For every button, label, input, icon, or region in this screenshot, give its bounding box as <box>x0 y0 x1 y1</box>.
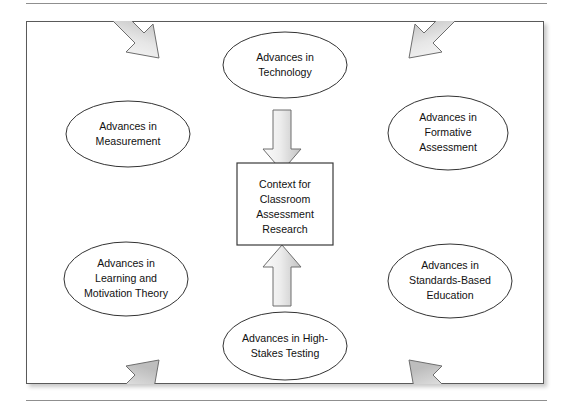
center-line-2: Classroom <box>260 193 311 205</box>
center-node-context-for-classroom-assessment-research: Context for Classroom Assessment Researc… <box>237 163 333 245</box>
arrow-standards-based-education-to-center <box>104 21 159 58</box>
node-learning-motivation-theory-line-2: Learning and <box>95 272 157 284</box>
page-rule-top <box>26 3 547 4</box>
node-technology: Advances in Technology <box>223 32 347 98</box>
node-high-stakes-testing-line-1: Advances in High- <box>242 332 328 344</box>
node-technology-line-1: Advances in <box>256 51 314 63</box>
node-standards-based-education-line-1: Advances in <box>421 259 479 271</box>
center-line-4: Research <box>262 223 307 235</box>
node-formative-assessment-line-3: Assessment <box>419 141 477 153</box>
node-high-stakes-testing-line-2: Stakes Testing <box>251 347 320 359</box>
page-rule-bottom <box>26 400 547 401</box>
node-learning-motivation-theory-line-1: Advances in <box>97 257 155 269</box>
node-formative-assessment-line-1: Advances in <box>419 111 477 123</box>
center-line-3: Assessment <box>256 208 314 220</box>
node-formative-assessment-line-2: Formative <box>424 126 471 138</box>
node-learning-motivation-theory-line-3: Motivation Theory <box>84 287 169 299</box>
node-measurement: Advances in Measurement <box>66 101 190 167</box>
arrow-learning-motivation-theory-to-center <box>409 21 464 58</box>
concept-diagram: Context for Classroom Assessment Researc… <box>26 21 544 384</box>
node-standards-based-education-line-2: Standards-Based <box>409 274 491 286</box>
node-formative-assessment: Advances in Formative Assessment <box>388 96 508 170</box>
arrow-formative-assessment-to-center <box>104 360 159 384</box>
node-technology-line-2: Technology <box>258 66 312 78</box>
arrow-high-stakes-testing-to-center <box>263 245 301 306</box>
node-standards-based-education-line-3: Education <box>426 289 473 301</box>
arrow-measurement-to-center <box>409 360 464 384</box>
node-learning-motivation-theory: Advances in Learning and Motivation Theo… <box>64 242 188 316</box>
arrow-technology-to-center <box>263 110 301 171</box>
node-measurement-line-2: Measurement <box>96 135 161 147</box>
node-high-stakes-testing: Advances in High- Stakes Testing <box>223 312 347 380</box>
figure-page: Context for Classroom Assessment Researc… <box>0 0 573 411</box>
center-line-1: Context for <box>259 178 311 190</box>
node-measurement-line-1: Advances in <box>99 120 157 132</box>
node-standards-based-education: Advances in Standards-Based Education <box>388 244 512 318</box>
